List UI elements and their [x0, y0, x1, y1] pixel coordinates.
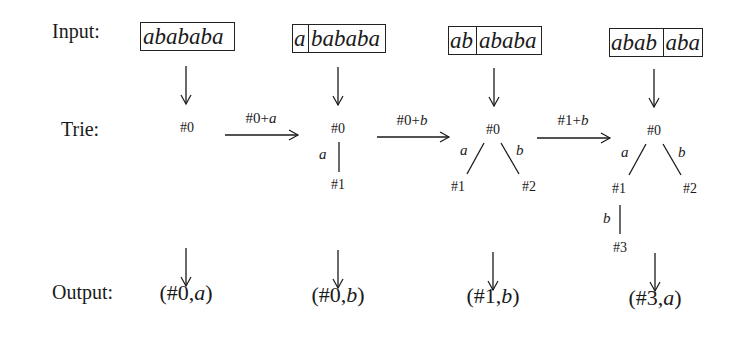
output-token-3: (#1,b) [466, 283, 519, 309]
trie-node: #0 [647, 123, 661, 139]
trie-node: #0 [180, 120, 194, 136]
trie-edge-label: b [516, 142, 524, 159]
transition-label-3: #1+b [558, 112, 589, 129]
diagram-lines [0, 0, 738, 341]
transition-label-1: #0+a [246, 110, 277, 127]
output-token-2: (#0,b) [311, 282, 364, 308]
output-token-4: (#3,a) [628, 285, 681, 311]
trie-edge-label: b [678, 144, 686, 161]
trie-edge-label: a [319, 146, 327, 163]
trie-edge-label: a [460, 142, 468, 159]
trie-edge [629, 144, 646, 175]
trie-node: #3 [613, 240, 627, 256]
trie-node: #1 [331, 177, 345, 193]
trie-node: #2 [522, 179, 536, 195]
trie-edge-label: a [621, 144, 629, 161]
trie-node: #0 [486, 122, 500, 138]
trie-node: #1 [451, 179, 465, 195]
trie-node: #0 [331, 121, 345, 137]
trie-edge-label: b [603, 210, 611, 227]
transition-label-2: #0+b [397, 112, 428, 129]
trie-node: #1 [612, 181, 626, 197]
output-token-1: (#0,a) [159, 280, 212, 306]
trie-edge [467, 143, 484, 174]
trie-node: #2 [683, 181, 697, 197]
